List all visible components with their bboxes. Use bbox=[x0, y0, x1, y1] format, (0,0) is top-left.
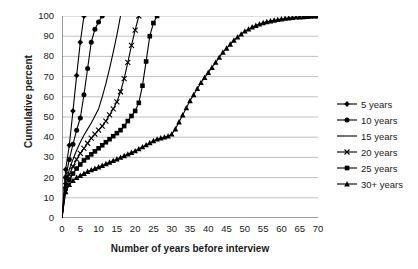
legend-item-25-years[interactable]: 25 years bbox=[336, 160, 418, 176]
legend-marker-cross-icon bbox=[336, 146, 358, 158]
legend-label: 10 years bbox=[358, 115, 397, 126]
legend-label: 15 years bbox=[358, 131, 397, 142]
legend-item-5-years[interactable]: 5 years bbox=[336, 96, 418, 112]
y-tick-label: 90 bbox=[24, 31, 54, 40]
legend-marker-circle-icon bbox=[336, 114, 358, 126]
legend-item-15-years[interactable]: 15 years bbox=[336, 128, 418, 144]
legend-marker-square-icon bbox=[336, 162, 358, 174]
plot-area bbox=[62, 16, 318, 218]
legend-marker-triangle-icon bbox=[336, 178, 358, 190]
y-tick-label: 80 bbox=[24, 51, 54, 60]
legend-item-20-years[interactable]: 20 years bbox=[336, 144, 418, 160]
legend-marker-none-icon bbox=[336, 130, 358, 142]
legend-label: 30+ years bbox=[358, 179, 403, 190]
y-tick-label: 20 bbox=[24, 173, 54, 182]
y-tick-label: 100 bbox=[24, 11, 54, 20]
plot-svg bbox=[62, 16, 318, 218]
legend-marker-diamond-icon bbox=[336, 98, 358, 110]
legend-label: 5 years bbox=[358, 99, 392, 110]
y-tick-label: 70 bbox=[24, 72, 54, 81]
cumulative-percent-line-chart: Cumulative percent 010203040506070809010… bbox=[0, 0, 418, 269]
legend-label: 25 years bbox=[358, 163, 397, 174]
legend: 5 years10 years15 years20 years25 years3… bbox=[336, 96, 418, 192]
y-tick-label: 10 bbox=[24, 193, 54, 202]
legend-label: 20 years bbox=[358, 147, 397, 158]
y-tick-label: 60 bbox=[24, 92, 54, 101]
legend-item-30-years[interactable]: 30+ years bbox=[336, 176, 418, 192]
y-tick-label: 40 bbox=[24, 132, 54, 141]
x-tick-label: 70 bbox=[306, 224, 330, 233]
y-tick-label: 30 bbox=[24, 152, 54, 161]
gridlines bbox=[62, 16, 318, 218]
legend-item-10-years[interactable]: 10 years bbox=[336, 112, 418, 128]
y-tick-label: 0 bbox=[24, 213, 54, 222]
x-axis-title: Number of years before interview bbox=[62, 243, 318, 254]
y-tick-label: 50 bbox=[24, 112, 54, 121]
